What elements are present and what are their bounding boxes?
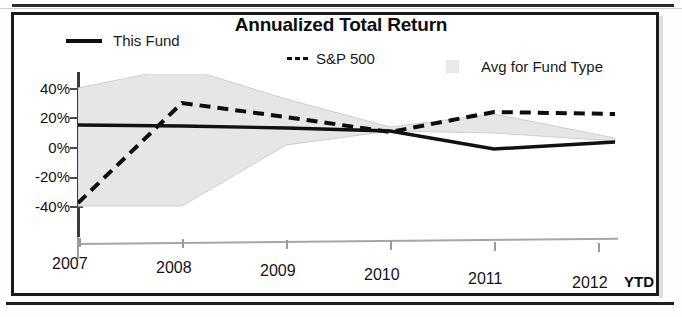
frame-shadow (659, 16, 663, 298)
y-tick-label-2: 0% (48, 139, 70, 156)
y-tick-label-1: 20% (40, 109, 70, 126)
gray-square-swatch-icon (446, 60, 459, 73)
x-tick-mark-2007 (79, 238, 81, 247)
x-tick-mark-2010 (390, 241, 392, 250)
x-tick-mark-2009 (286, 240, 288, 249)
legend-item-avg-fund-type: Avg for Fund Type (446, 58, 603, 75)
page-top-hairline (0, 8, 682, 9)
x-tick-label-2007: 2007 (52, 255, 88, 273)
legend-item-this-fund: This Fund (66, 32, 180, 49)
legend-label-sp500: S&P 500 (316, 50, 375, 67)
y-tick-label-0: 40% (40, 80, 70, 97)
legend-label-avg-fund-type: Avg for Fund Type (481, 58, 603, 75)
x-axis-ytd-suffix: YTD (624, 273, 654, 290)
x-tick-mark-2012 (598, 243, 600, 252)
legend-item-sp500: S&P 500 (287, 50, 375, 67)
series-area-avg-for-fund-type (78, 74, 615, 206)
x-tick-label-2010: 2010 (364, 266, 400, 284)
chart-screenshot: Annualized Total Return This Fund S&P 50… (0, 0, 682, 317)
dashed-line-swatch-icon (287, 57, 309, 60)
y-tick-label-4: -40% (35, 198, 70, 215)
solid-line-swatch-icon (66, 39, 102, 43)
x-tick-mark-2011 (494, 242, 496, 251)
legend-label-this-fund: This Fund (113, 32, 180, 49)
y-tick-label-3: -20% (35, 168, 70, 185)
x-tick-mark-2008 (182, 239, 184, 248)
x-tick-label-2008: 2008 (156, 259, 192, 277)
plot-area (78, 74, 618, 222)
page-top-rule (12, 4, 674, 7)
x-tick-label-2011: 2011 (468, 270, 502, 288)
x-tick-label-2012: 2012 (572, 274, 608, 292)
x-tick-label-2009: 2009 (260, 262, 296, 280)
page-bottom-rule (6, 302, 674, 305)
